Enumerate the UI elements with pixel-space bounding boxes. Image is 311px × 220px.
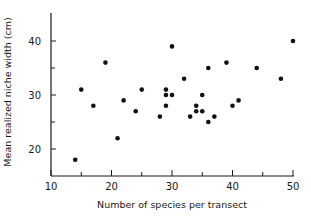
x-axis-title: Number of species per transect (97, 199, 247, 210)
x-ticks: 1020304050 (45, 170, 300, 192)
x-tick-label: 50 (287, 181, 300, 192)
data-point (164, 104, 169, 109)
data-point (158, 114, 163, 119)
data-point (91, 104, 96, 109)
data-points (73, 39, 295, 162)
y-axis-title: Mean realized niche width (cm) (2, 17, 13, 166)
y-tick-label: 20 (28, 144, 41, 155)
data-point (254, 66, 259, 71)
x-tick-label: 30 (166, 181, 179, 192)
x-tick-label: 20 (105, 181, 118, 192)
y-tick-label: 40 (28, 36, 41, 47)
x-tick-label: 40 (226, 181, 239, 192)
data-point (139, 87, 144, 92)
x-tick-label: 10 (45, 181, 58, 192)
data-point (164, 87, 169, 92)
data-point (103, 60, 108, 65)
data-point (279, 77, 284, 82)
data-point (200, 109, 205, 114)
data-point (206, 66, 211, 71)
axes: 1020304050 203040 (28, 13, 299, 192)
data-point (194, 109, 199, 114)
scatter-chart: 1020304050 203040 Number of species per … (0, 0, 311, 220)
data-point (224, 60, 229, 65)
data-point (115, 136, 120, 141)
data-point (79, 87, 84, 92)
y-ticks: 203040 (28, 36, 56, 155)
data-point (164, 93, 169, 98)
data-point (200, 93, 205, 98)
data-point (170, 44, 175, 49)
data-point (121, 98, 126, 103)
data-point (291, 39, 296, 44)
data-point (236, 98, 241, 103)
data-point (182, 77, 187, 82)
y-tick-label: 30 (28, 90, 41, 101)
data-point (194, 104, 199, 109)
data-point (212, 114, 217, 119)
data-point (230, 104, 235, 109)
data-point (133, 109, 138, 114)
data-point (170, 93, 175, 98)
data-point (206, 120, 211, 125)
data-point (188, 114, 193, 119)
data-point (73, 158, 78, 163)
